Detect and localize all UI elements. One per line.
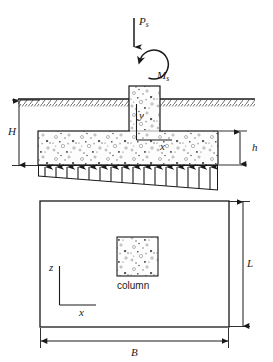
section-axis-label-y: y bbox=[139, 110, 144, 121]
footing-diagram-svg bbox=[0, 0, 273, 362]
thickness-label-h: h bbox=[252, 142, 258, 153]
plan-axis-label-z: z bbox=[49, 262, 53, 273]
plan-width-label-B: B bbox=[131, 347, 138, 358]
axial-load-label: Ps bbox=[139, 16, 149, 29]
plan-column-label: column bbox=[117, 281, 149, 291]
thickness-dimension-h bbox=[219, 131, 247, 165]
plan-column bbox=[117, 237, 158, 276]
footing-diagram: Ps Ms H h y x z x column L B bbox=[0, 0, 273, 362]
moment-label: Ms bbox=[157, 70, 169, 83]
section-axis-label-x: x bbox=[160, 141, 165, 152]
width-dimension-B bbox=[41, 328, 229, 348]
plan-length-label-L: L bbox=[247, 258, 253, 269]
plan-axis-label-x: x bbox=[79, 307, 84, 318]
footing-pad bbox=[38, 131, 218, 165]
depth-label-H: H bbox=[8, 126, 16, 137]
column-stem bbox=[129, 86, 160, 132]
soil-pressure-distribution bbox=[38, 166, 218, 191]
